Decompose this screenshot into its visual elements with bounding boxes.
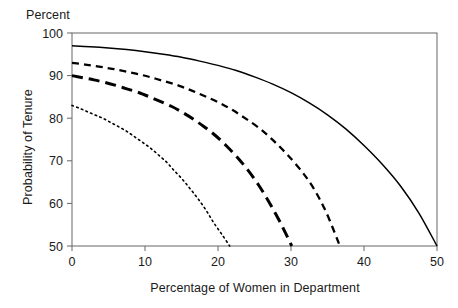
y-axis-ticks: 5060708090100 <box>42 27 72 254</box>
short-dash-curve <box>72 63 340 246</box>
x-tick-label: 20 <box>211 255 225 269</box>
x-tick-label: 40 <box>357 255 371 269</box>
x-tick-label: 30 <box>284 255 298 269</box>
long-dash-curve <box>72 76 292 246</box>
x-tick-label: 10 <box>138 255 152 269</box>
data-curves <box>72 46 437 246</box>
plot-frame <box>72 33 437 246</box>
y-tick-label: 70 <box>49 154 63 168</box>
y-tick-label: 80 <box>49 112 63 126</box>
x-tick-label: 50 <box>430 255 444 269</box>
plot-area: 5060708090100 01020304050 <box>0 0 458 308</box>
solid-curve <box>72 46 437 246</box>
x-tick-label: 0 <box>69 255 76 269</box>
tenure-probability-chart: Percent Probability of Tenure Percentage… <box>0 0 458 308</box>
y-tick-label: 90 <box>49 69 63 83</box>
y-tick-label: 100 <box>42 27 63 41</box>
y-tick-label: 50 <box>49 240 63 254</box>
x-axis-ticks: 01020304050 <box>69 246 444 269</box>
y-tick-label: 60 <box>49 197 63 211</box>
